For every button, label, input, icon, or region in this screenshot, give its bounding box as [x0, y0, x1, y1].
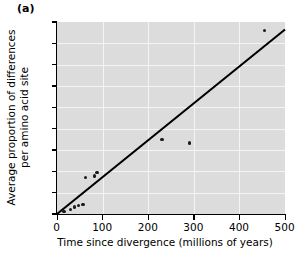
- data-point: [81, 203, 84, 206]
- data-point: [77, 204, 80, 207]
- data-point: [160, 138, 163, 141]
- data-point: [69, 208, 72, 211]
- data-point: [73, 205, 76, 208]
- data-point: [263, 29, 266, 32]
- data-point: [84, 176, 87, 179]
- data-point: [93, 174, 96, 177]
- data-point: [62, 210, 65, 213]
- data-points-layer: [0, 0, 298, 255]
- data-point: [95, 171, 98, 174]
- figure-panel: (a) 0.9 0.8 0.7 0.6 0.5 0.4 0: [0, 0, 298, 255]
- data-point: [188, 141, 191, 144]
